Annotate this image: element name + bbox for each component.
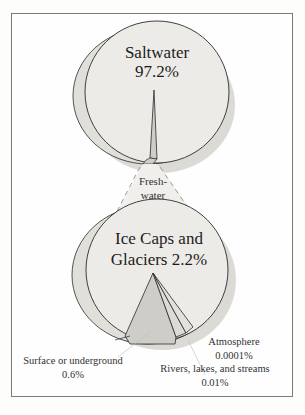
saltwater-value: 97.2% [117, 63, 197, 82]
atmosphere-label: Atmosphere [200, 336, 268, 348]
surface-underground-label: Surface or underground [18, 355, 128, 367]
saltwater-label: Saltwater [117, 44, 197, 63]
rivers-lakes-value: 0.01% [155, 377, 275, 389]
rivers-lakes-label: Rivers, lakes, and streams [155, 363, 275, 375]
freshwater-label-line1: Fresh- [130, 175, 176, 187]
atmosphere-value: 0.0001% [200, 350, 268, 362]
ice-caps-label-line2: Glaciers 2.2% [100, 251, 218, 270]
freshwater-label-line2: water [130, 189, 176, 201]
surface-underground-value: 0.6% [18, 369, 128, 381]
ice-caps-label-line1: Ice Caps and [100, 230, 218, 249]
